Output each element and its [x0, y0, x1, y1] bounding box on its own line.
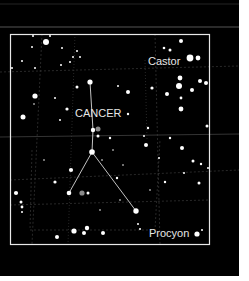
star — [11, 67, 13, 69]
star — [87, 192, 90, 195]
star — [82, 231, 86, 235]
star — [79, 56, 81, 58]
star — [149, 189, 151, 191]
star — [49, 35, 51, 37]
star — [97, 135, 100, 138]
star — [53, 180, 56, 183]
star — [112, 149, 114, 151]
star — [187, 55, 194, 62]
star — [21, 211, 23, 213]
star — [67, 191, 72, 196]
star — [163, 47, 166, 50]
star — [165, 92, 169, 96]
star — [85, 226, 89, 230]
star — [34, 67, 36, 69]
star — [126, 90, 130, 94]
star — [54, 97, 56, 99]
star — [101, 159, 103, 161]
star — [76, 50, 78, 52]
star-label-castor: Castor — [148, 55, 181, 67]
star — [32, 93, 37, 98]
star — [32, 35, 34, 37]
star — [20, 201, 23, 204]
star — [61, 47, 63, 49]
star — [158, 157, 160, 159]
sky-background — [0, 0, 239, 276]
star — [206, 125, 209, 128]
star — [91, 128, 95, 132]
star — [116, 177, 118, 179]
star — [147, 127, 149, 129]
star — [31, 46, 33, 48]
star — [60, 64, 62, 66]
star — [183, 172, 185, 174]
star — [14, 191, 18, 195]
star — [43, 39, 49, 45]
star — [71, 228, 76, 233]
star-cluster — [79, 190, 84, 195]
star — [207, 167, 209, 169]
star-chart: CANCER Castor Procyon — [0, 0, 249, 281]
star — [99, 209, 101, 211]
star — [169, 49, 172, 52]
star — [178, 76, 183, 81]
star — [101, 231, 105, 235]
star — [21, 60, 23, 62]
star — [204, 81, 208, 85]
star — [76, 86, 79, 89]
star — [137, 223, 139, 225]
star — [194, 231, 199, 236]
star — [196, 56, 201, 61]
star-cluster — [96, 127, 101, 132]
star — [198, 182, 201, 185]
star — [176, 83, 182, 89]
star — [180, 97, 183, 100]
star — [192, 160, 195, 163]
star — [143, 135, 145, 137]
star — [33, 103, 35, 105]
star — [179, 39, 183, 43]
star — [139, 228, 141, 230]
star — [119, 199, 121, 201]
star — [43, 159, 45, 161]
star — [89, 149, 95, 155]
star — [21, 206, 24, 209]
star — [201, 229, 203, 231]
star — [179, 107, 184, 112]
star — [72, 56, 74, 58]
star — [69, 168, 73, 172]
star — [169, 137, 171, 139]
star — [198, 79, 202, 83]
star — [69, 61, 71, 63]
star — [87, 79, 92, 84]
star — [150, 86, 153, 89]
star — [109, 137, 111, 139]
star — [59, 119, 61, 121]
star — [122, 164, 124, 166]
star — [21, 115, 26, 120]
star — [65, 107, 68, 110]
star — [190, 88, 194, 92]
constellation-label: CANCER — [75, 107, 122, 119]
star — [133, 208, 138, 213]
star — [144, 143, 148, 147]
star — [117, 85, 119, 87]
star-label-procyon: Procyon — [149, 227, 189, 239]
star — [200, 163, 202, 165]
star — [55, 235, 59, 239]
star — [164, 181, 166, 183]
star — [180, 146, 184, 150]
star — [127, 113, 129, 115]
